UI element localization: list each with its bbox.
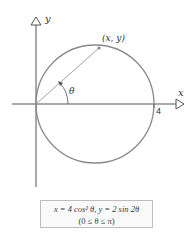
x-axis-arrow-icon — [176, 99, 184, 109]
y-axis-arrow-icon — [31, 17, 41, 25]
radius-line — [36, 48, 99, 104]
x-tick-label: 4 — [156, 106, 161, 116]
x-axis-label: x — [178, 87, 184, 98]
parametric-circle-diagram — [0, 0, 194, 232]
angle-arc — [60, 83, 68, 104]
equation-line-1: x = 4 cos² θ, y = 2 sin 2θ — [41, 203, 152, 215]
equation-box: x = 4 cos² θ, y = 2 sin 2θ (0 ≤ θ ≤ π) — [40, 200, 153, 228]
equation-line-2: (0 ≤ θ ≤ π) — [41, 215, 152, 227]
point-label: (x, y) — [102, 33, 125, 43]
y-axis-label: y — [45, 13, 51, 24]
angle-label: θ — [69, 86, 74, 96]
point-marker — [97, 46, 100, 49]
